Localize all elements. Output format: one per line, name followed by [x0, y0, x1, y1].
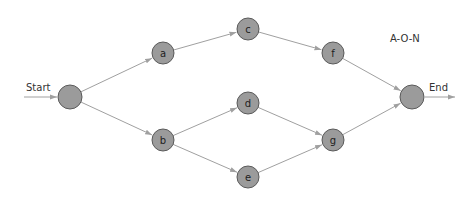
node-label: b — [160, 135, 166, 146]
node-label: c — [245, 24, 251, 35]
node-a: a — [152, 42, 174, 64]
end-label: End — [429, 82, 448, 93]
node-label: g — [330, 135, 336, 146]
edge-e-g — [258, 145, 322, 173]
edge-b-d — [173, 108, 237, 136]
node-label: f — [331, 48, 335, 59]
edge-start-b — [81, 102, 152, 135]
diagram-title: A-O-N — [390, 33, 420, 44]
node-circle — [58, 85, 82, 109]
node-c: c — [237, 18, 259, 40]
aon-network-diagram: abcdefg Start End A-O-N — [0, 0, 474, 198]
node-b: b — [152, 129, 174, 151]
node-circle — [400, 85, 424, 109]
node-end — [400, 85, 424, 109]
node-start — [58, 85, 82, 109]
node-label: e — [245, 172, 251, 183]
edge-start-a — [81, 58, 152, 92]
edge-f-end — [343, 58, 401, 90]
edge-c-f — [259, 32, 322, 50]
node-label: d — [245, 98, 251, 109]
edge-g-end — [343, 103, 401, 135]
node-d: d — [237, 92, 259, 114]
nodes-layer: abcdefg — [58, 18, 424, 188]
start-label: Start — [26, 82, 51, 93]
edge-a-c — [174, 32, 237, 50]
edge-d-g — [258, 107, 322, 135]
node-label: a — [160, 48, 166, 59]
edge-b-e — [173, 144, 237, 172]
node-f: f — [322, 42, 344, 64]
node-e: e — [237, 166, 259, 188]
node-g: g — [322, 129, 344, 151]
